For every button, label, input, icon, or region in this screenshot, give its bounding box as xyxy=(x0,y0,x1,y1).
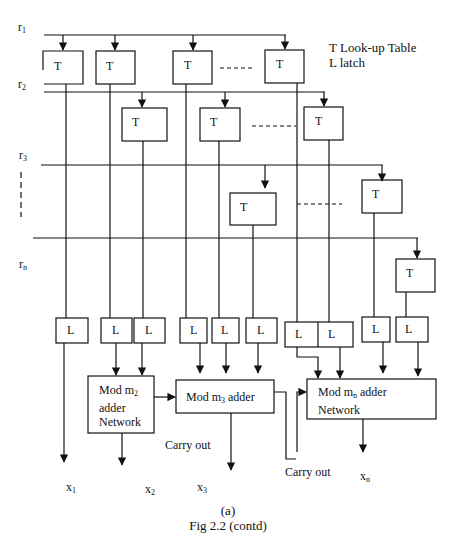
lookup-table-label: T xyxy=(132,115,139,129)
latch-label: L xyxy=(112,323,119,337)
lookup-table-label: T xyxy=(240,200,247,214)
latch-label: L xyxy=(221,323,228,337)
lookup-table-label: T xyxy=(54,59,61,73)
input-rn: rn xyxy=(19,257,27,275)
panel-label: (a) xyxy=(168,503,288,518)
latch-label: L xyxy=(328,327,335,341)
input-r2: r2 xyxy=(18,77,26,95)
legend-latch: L latch xyxy=(329,55,416,70)
carry-out-label-m2: Carry out xyxy=(165,438,211,452)
rown-lookup-table xyxy=(396,259,435,292)
latch-to-adder-arrows xyxy=(116,342,418,378)
lookup-table-label: T xyxy=(210,115,217,129)
table-to-latch-lines xyxy=(66,83,406,322)
output-x1: x1 xyxy=(66,480,76,498)
figure-title: Fig 2.2 (contd) xyxy=(168,518,288,533)
lookup-table-label: T xyxy=(406,266,413,280)
figure-caption: (a) Fig 2.2 (contd) xyxy=(168,503,288,533)
row2-lookup-tables xyxy=(122,107,343,141)
mod-mn-adder-label: Mod mn adder Network xyxy=(318,385,387,417)
rn-bus xyxy=(33,238,418,258)
lookup-table-label: T xyxy=(184,58,191,72)
carry-into-mn xyxy=(297,392,306,452)
mod-m2-adder-label: Mod m2 adder Network xyxy=(99,383,141,429)
input-r1: r1 xyxy=(18,20,26,38)
output-x2: x2 xyxy=(145,482,155,500)
output-x3: x3 xyxy=(197,480,207,498)
latch-label: L xyxy=(257,323,264,337)
lookup-table-label: T xyxy=(372,187,379,201)
r2-bus xyxy=(44,92,325,107)
carry-out-label-m3: Carry out xyxy=(285,465,331,479)
latch-label: L xyxy=(372,322,379,336)
latch-label: L xyxy=(67,323,74,337)
legend: T Look-up Table L latch xyxy=(329,40,416,70)
r1-bus xyxy=(44,35,286,50)
latch-label: L xyxy=(145,323,152,337)
latch-label: L xyxy=(190,323,197,337)
latch-label: L xyxy=(295,327,302,341)
diagram-canvas xyxy=(0,0,453,537)
lookup-table-label: T xyxy=(276,57,283,71)
r3-bus xyxy=(41,165,383,188)
latch-label: L xyxy=(405,322,412,336)
mod-m3-adder-label: Mod m3 adder xyxy=(186,390,255,408)
legend-lookup-table: T Look-up Table xyxy=(329,40,416,55)
lookup-table-label: T xyxy=(315,114,322,128)
input-r3: r3 xyxy=(19,148,27,166)
output-xn: xn xyxy=(360,469,370,487)
row1-lookup-tables xyxy=(43,50,304,84)
lookup-table-label: T xyxy=(106,59,113,73)
carry-m3-out xyxy=(274,392,296,459)
